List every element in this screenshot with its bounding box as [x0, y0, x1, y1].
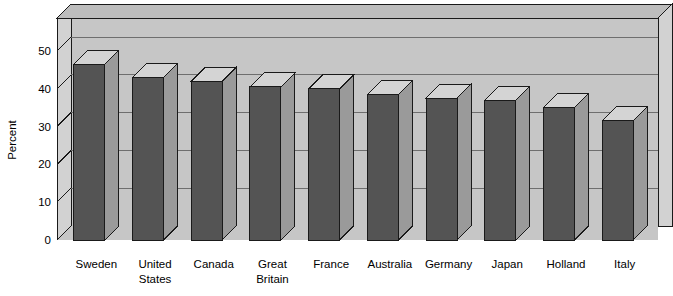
bar	[309, 75, 354, 240]
bar-side-face	[222, 67, 236, 240]
bar-side-face	[457, 84, 471, 240]
plot-left-wall	[57, 18, 71, 240]
bar-side-face	[340, 75, 354, 240]
chart-canvas: 01020304050PercentSwedenUnitedStatesCana…	[0, 0, 673, 296]
bar	[485, 86, 530, 240]
bar-front-face	[367, 94, 398, 240]
plot-top-bevel	[57, 4, 672, 18]
x-axis-label: Sweden	[76, 258, 118, 270]
bar-front-face	[485, 100, 516, 240]
y-tick-label: 40	[38, 83, 51, 95]
x-axis-label: Holland	[546, 258, 585, 270]
x-axis-labels: SwedenUnitedStatesCanadaGreatBritainFran…	[76, 258, 636, 285]
bar-front-face	[250, 87, 281, 240]
x-axis-label: Italy	[614, 258, 635, 270]
y-tick-label: 10	[38, 196, 51, 208]
x-axis-label: Canada	[194, 258, 235, 270]
bar	[250, 73, 295, 240]
bar-front-face	[133, 77, 164, 240]
bar	[191, 67, 236, 240]
bar-front-face	[543, 108, 574, 240]
bar-side-face	[633, 107, 647, 240]
y-tick-label: 50	[38, 45, 51, 57]
bar	[543, 94, 588, 240]
x-axis-label: Australia	[367, 258, 412, 270]
plot-right-bevel	[658, 4, 672, 226]
bar-front-face	[309, 89, 340, 240]
y-axis-title: Percent	[6, 119, 18, 159]
x-axis-label: United	[138, 258, 171, 270]
bar-side-face	[281, 73, 295, 240]
bar-side-face	[398, 80, 412, 240]
x-axis-label: Britain	[256, 273, 289, 285]
y-tick-label: 20	[38, 158, 51, 170]
bar	[74, 50, 119, 240]
x-axis-label: France	[313, 258, 349, 270]
bar	[133, 63, 178, 240]
x-axis-label: Germany	[425, 258, 473, 270]
bar-side-face	[164, 63, 178, 240]
bar-chart: 01020304050PercentSwedenUnitedStatesCana…	[0, 0, 673, 296]
bar-side-face	[105, 50, 119, 240]
bar-front-face	[602, 121, 633, 240]
x-axis-label: Japan	[492, 258, 523, 270]
bar-front-face	[191, 81, 222, 240]
x-axis-label: States	[139, 273, 172, 285]
y-tick-label: 0	[45, 234, 51, 246]
bar-side-face	[574, 94, 588, 240]
bar	[426, 84, 471, 240]
bar	[367, 80, 412, 240]
y-tick-label: 30	[38, 121, 51, 133]
bar-front-face	[74, 64, 105, 240]
bar	[602, 107, 647, 240]
x-axis-label: Great	[258, 258, 288, 270]
bar-front-face	[426, 98, 457, 240]
bar-side-face	[516, 86, 530, 240]
